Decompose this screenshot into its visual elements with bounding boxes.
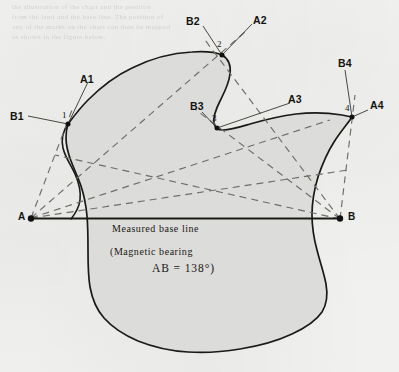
ray-label-b4: B4 xyxy=(338,58,352,69)
station-number-4: 4 xyxy=(345,104,350,113)
ray-label-b1: B1 xyxy=(10,111,24,122)
baseline-endpoint-b-label: B xyxy=(348,212,355,222)
ray-label-a4: A4 xyxy=(370,100,384,111)
ray-a1 xyxy=(31,110,72,218)
baseline-endpoint-a-label: A xyxy=(18,212,25,222)
ray-label-a2: A2 xyxy=(253,15,267,26)
island-landmass xyxy=(66,52,352,353)
ray-label-b3: B3 xyxy=(190,101,204,112)
ray-label-b2: B2 xyxy=(186,16,200,27)
marker-point-2 xyxy=(220,53,225,58)
magnetic-bearing-note: (Magnetic bearing xyxy=(110,247,193,257)
leader-a4 xyxy=(352,110,368,117)
measured-base-line-label: Measured base line xyxy=(112,224,199,234)
marker-endpoint-b xyxy=(337,215,343,221)
marker-point-3 xyxy=(215,126,220,131)
station-number-3: 3 xyxy=(212,114,217,123)
station-number-1: 1 xyxy=(62,111,67,120)
figure-page: the illustration of the chart and the po… xyxy=(0,0,399,372)
station-number-2: 2 xyxy=(217,40,222,49)
marker-endpoint-a xyxy=(28,215,34,221)
triangulation-diagram xyxy=(0,0,399,372)
bearing-value: AB = 138°) xyxy=(152,263,215,275)
ray-b4 xyxy=(340,95,355,219)
marker-point-4 xyxy=(350,115,355,120)
marker-point-1 xyxy=(66,122,71,127)
ray-label-a3: A3 xyxy=(288,94,302,105)
leader-a2 xyxy=(222,24,252,55)
ray-label-a1: A1 xyxy=(80,74,94,85)
